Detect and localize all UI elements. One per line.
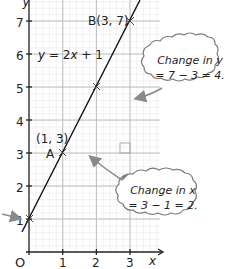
x-tick-3: 3 <box>126 256 134 269</box>
y-tick-3: 3 <box>16 148 24 162</box>
callout-y-line1: Change in y <box>157 54 223 67</box>
x-tick-1: 1 <box>59 256 67 269</box>
callout-y-line2: = 7 − 3 = 4. <box>155 69 225 82</box>
y-tick-5: 5 <box>16 82 24 96</box>
grid <box>29 0 160 252</box>
x-axis-label: x <box>148 254 157 268</box>
point-a-coord: (1, 3) <box>36 132 68 146</box>
origin-label: O <box>15 255 25 269</box>
y-tick-2: 2 <box>16 181 24 195</box>
equation-label: y = 2x + 1 <box>37 48 103 62</box>
point-a-label: A <box>46 147 55 161</box>
callout-x-line1: Change in x <box>130 184 196 197</box>
linear-graph: y 1 2 3 4 5 6 7 O 1 2 3 x B(3, 7) (1, 3)… <box>0 0 245 269</box>
callout-x-line2: = 3 − 1 = 2. <box>128 199 198 212</box>
x-tick-2: 2 <box>92 256 100 269</box>
y-tick-1: 1 <box>16 214 24 228</box>
y-axis-label: y <box>21 0 30 9</box>
y-tick-6: 6 <box>16 49 24 63</box>
point-b-label: B(3, 7) <box>88 14 129 28</box>
y-tick-7: 7 <box>16 16 24 30</box>
y-tick-4: 4 <box>16 115 24 129</box>
